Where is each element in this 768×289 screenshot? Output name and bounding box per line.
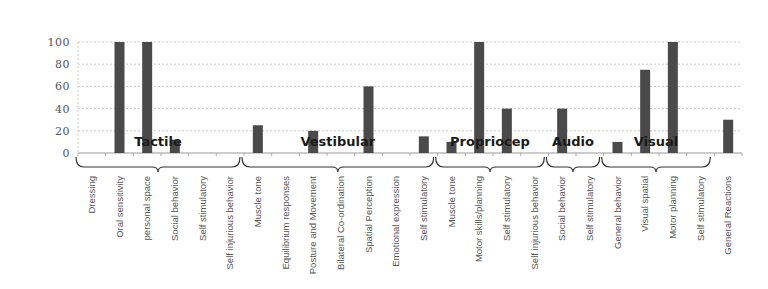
group-brace [76, 157, 240, 172]
x-tick-label: General Reactions [722, 176, 733, 255]
x-tick-label: Posture and Movement [307, 176, 318, 275]
group-label-audio: Audio [552, 134, 594, 149]
group-label-visual: Visual [634, 134, 679, 149]
y-tick-label: 80 [55, 58, 70, 71]
group-brace [436, 157, 545, 172]
x-tick-label: Spatial Perception [363, 176, 374, 253]
x-tick-label: Self stimulatory [197, 176, 208, 241]
x-tick-label: Equilibrium responses [280, 176, 291, 270]
x-tick-label: Muscle tone [252, 176, 263, 227]
y-tick-label: 100 [48, 36, 71, 49]
bar [723, 120, 733, 153]
group-brace [242, 157, 434, 172]
group-brace [546, 157, 599, 172]
group-labels: TactileVestibularPropriocepAudioVisual [134, 134, 678, 149]
x-tick-label: General behavior [612, 176, 623, 249]
x-tick-label: Self injurious behavior [529, 176, 540, 269]
x-tick-label: Self stimulatory [695, 176, 706, 241]
group-label-tactile: Tactile [134, 134, 182, 149]
bar-chart: 020406080100 TactileVestibularPropriocep… [0, 0, 768, 289]
x-tick-label: Motor planning [667, 176, 678, 239]
group-brace [602, 157, 711, 172]
bar [253, 125, 263, 153]
y-axis: 020406080100 [48, 36, 71, 160]
x-tick-label: Self stimulatory [584, 176, 595, 241]
x-tick-label: Oral sensitivity [114, 176, 125, 238]
y-tick-label: 40 [55, 103, 70, 116]
group-label-propriocep: Propriocep [450, 134, 530, 149]
x-axis-labels: DressingOral sensitivitypersonal spaceSo… [86, 176, 733, 275]
y-tick-label: 60 [55, 80, 70, 93]
x-tick-label: Bilateral Co-ordination [335, 176, 346, 270]
y-tick-label: 0 [63, 147, 71, 160]
x-tick-label: Emotional expression [390, 176, 401, 267]
group-label-vestibular: Vestibular [300, 134, 375, 149]
bar [613, 142, 623, 153]
x-tick-label: Self stimulatory [501, 176, 512, 241]
x-tick-label: Muscle tone [446, 176, 457, 227]
x-tick-label: Self injurious behavior [224, 176, 235, 269]
x-tick-label: Social behavior [556, 176, 567, 241]
y-tick-label: 20 [55, 125, 70, 138]
bar [115, 42, 125, 153]
x-tick-label: Social behavior [169, 176, 180, 241]
x-tick-label: Dressing [86, 176, 97, 214]
bar [419, 136, 429, 153]
group-braces [76, 157, 710, 172]
x-tick-label: Visual spatial [639, 176, 650, 232]
x-tick-label: personal space [141, 176, 152, 240]
x-tick-label: Motor skills/planning [473, 176, 484, 262]
x-tick-label: Self stimulatory [418, 176, 429, 241]
